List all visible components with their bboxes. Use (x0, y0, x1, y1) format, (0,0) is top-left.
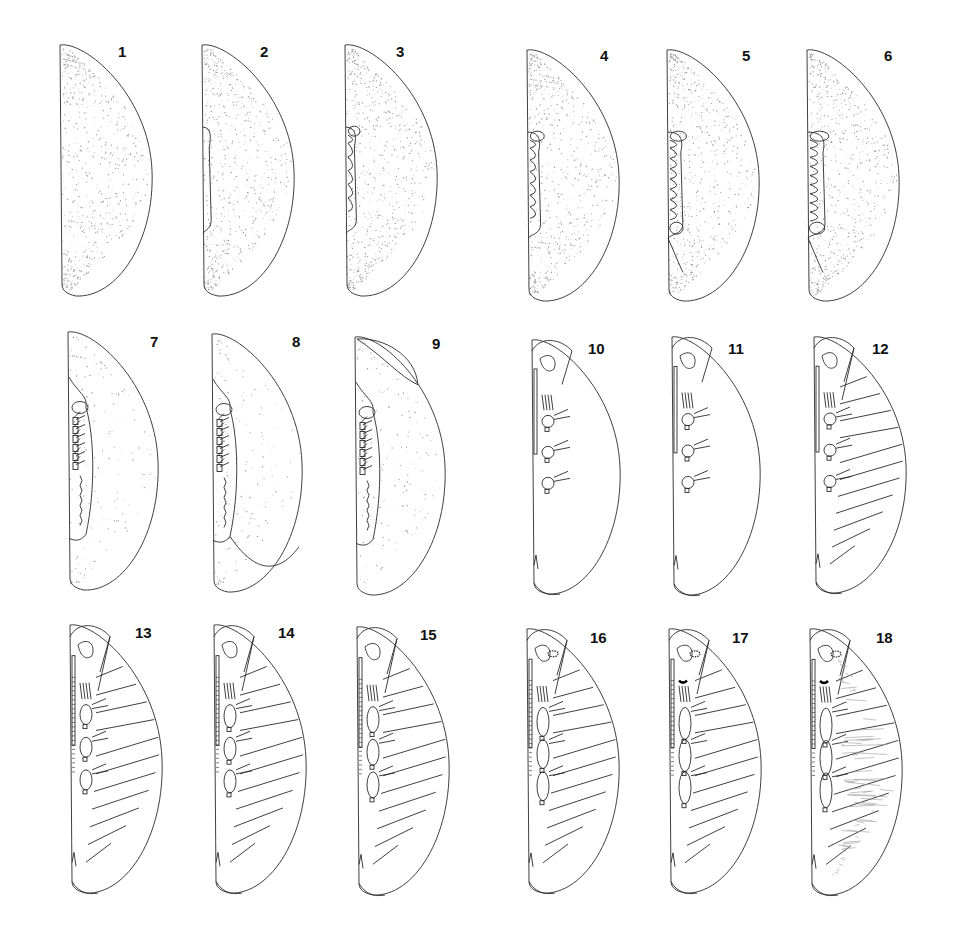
embryo-figure-13 (58, 623, 164, 895)
embryo-figure-4 (515, 48, 621, 303)
figure-number-label: 13 (135, 625, 152, 640)
figure-number-label: 16 (590, 630, 607, 645)
embryo-drawing (343, 335, 447, 597)
figure-number-label: 3 (396, 44, 404, 59)
figure-number-label: 8 (292, 334, 300, 349)
embryo-figure-17 (657, 627, 763, 895)
embryo-figure-5 (655, 48, 761, 303)
figure-number-label: 10 (588, 341, 605, 356)
embryo-drawing (345, 625, 451, 897)
embryo-figure-2 (190, 43, 296, 298)
figure-number-label: 11 (728, 341, 744, 356)
embryo-drawing (515, 48, 621, 303)
figure-number-label: 14 (278, 625, 295, 640)
embryo-figure-16 (515, 627, 621, 895)
embryo-figure-1 (48, 43, 154, 298)
embryo-drawing (515, 627, 621, 895)
figure-number-label: 4 (600, 48, 608, 63)
figure-number-label: 2 (260, 44, 268, 59)
embryo-figure-11 (660, 335, 762, 597)
embryo-drawing (56, 330, 160, 592)
figure-number-label: 12 (872, 341, 889, 356)
embryo-drawing (48, 43, 154, 298)
embryo-figure-3 (333, 43, 439, 298)
embryo-drawing (520, 338, 622, 596)
embryo-figure-9 (343, 335, 447, 597)
embryo-drawing (802, 335, 908, 595)
embryo-drawing (333, 43, 439, 298)
embryo-drawing (795, 48, 901, 303)
embryo-figure-12 (802, 335, 908, 595)
figure-number-label: 7 (150, 334, 158, 349)
figure-number-label: 5 (742, 48, 750, 63)
figure-number-label: 17 (732, 630, 749, 645)
embryo-drawing (657, 627, 763, 895)
embryo-drawing (190, 43, 296, 298)
embryo-drawing (655, 48, 761, 303)
embryo-figure-10 (520, 338, 622, 596)
embryo-figure-18 (798, 627, 904, 897)
figure-number-label: 18 (876, 630, 893, 645)
embryo-drawing (202, 623, 308, 895)
embryo-figure-14 (202, 623, 308, 895)
embryo-figure-15 (345, 625, 451, 897)
embryo-drawing (58, 623, 164, 895)
figure-number-label: 1 (118, 44, 126, 59)
embryo-drawing (200, 332, 304, 594)
embryo-drawing (798, 627, 904, 897)
embryo-stage-plate: 123456789101112131415161718 (0, 0, 953, 929)
embryo-figure-8 (200, 332, 304, 594)
figure-number-label: 15 (420, 627, 437, 642)
figure-number-label: 6 (884, 48, 892, 63)
embryo-figure-6 (795, 48, 901, 303)
figure-number-label: 9 (432, 336, 440, 351)
embryo-drawing (660, 335, 762, 597)
embryo-figure-7 (56, 330, 160, 592)
